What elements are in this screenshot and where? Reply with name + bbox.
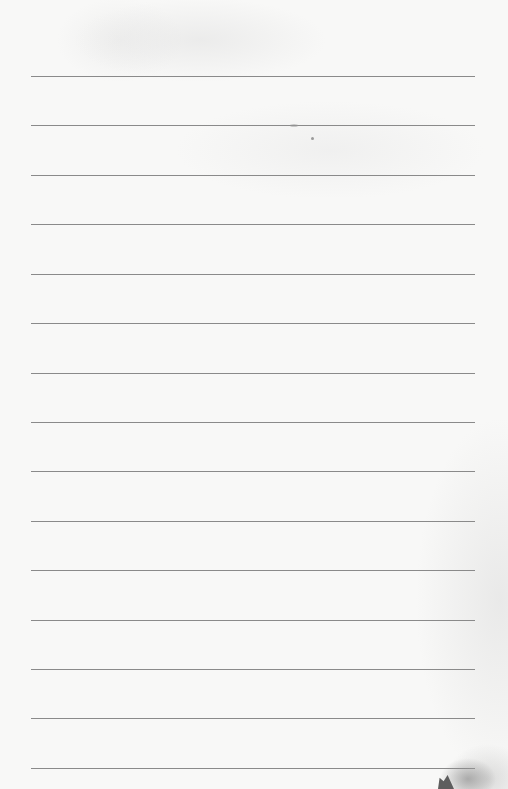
ruled-line bbox=[31, 620, 475, 621]
ruled-line bbox=[31, 570, 475, 571]
ink-smudge bbox=[290, 124, 298, 127]
lined-paper-page bbox=[0, 0, 508, 789]
ruled-line bbox=[31, 76, 475, 77]
ink-dot bbox=[311, 137, 314, 140]
ruled-line bbox=[31, 422, 475, 423]
ruled-line bbox=[31, 175, 475, 176]
ruled-line bbox=[31, 373, 475, 374]
ruled-line bbox=[31, 669, 475, 670]
decorative-corner-illustration bbox=[398, 719, 508, 789]
ruled-line bbox=[31, 521, 475, 522]
ruled-line bbox=[31, 125, 475, 126]
ruled-line bbox=[31, 224, 475, 225]
ruled-line bbox=[31, 323, 475, 324]
leaf-decoration-icon bbox=[438, 775, 454, 789]
ruled-line bbox=[31, 471, 475, 472]
ruled-line bbox=[31, 274, 475, 275]
